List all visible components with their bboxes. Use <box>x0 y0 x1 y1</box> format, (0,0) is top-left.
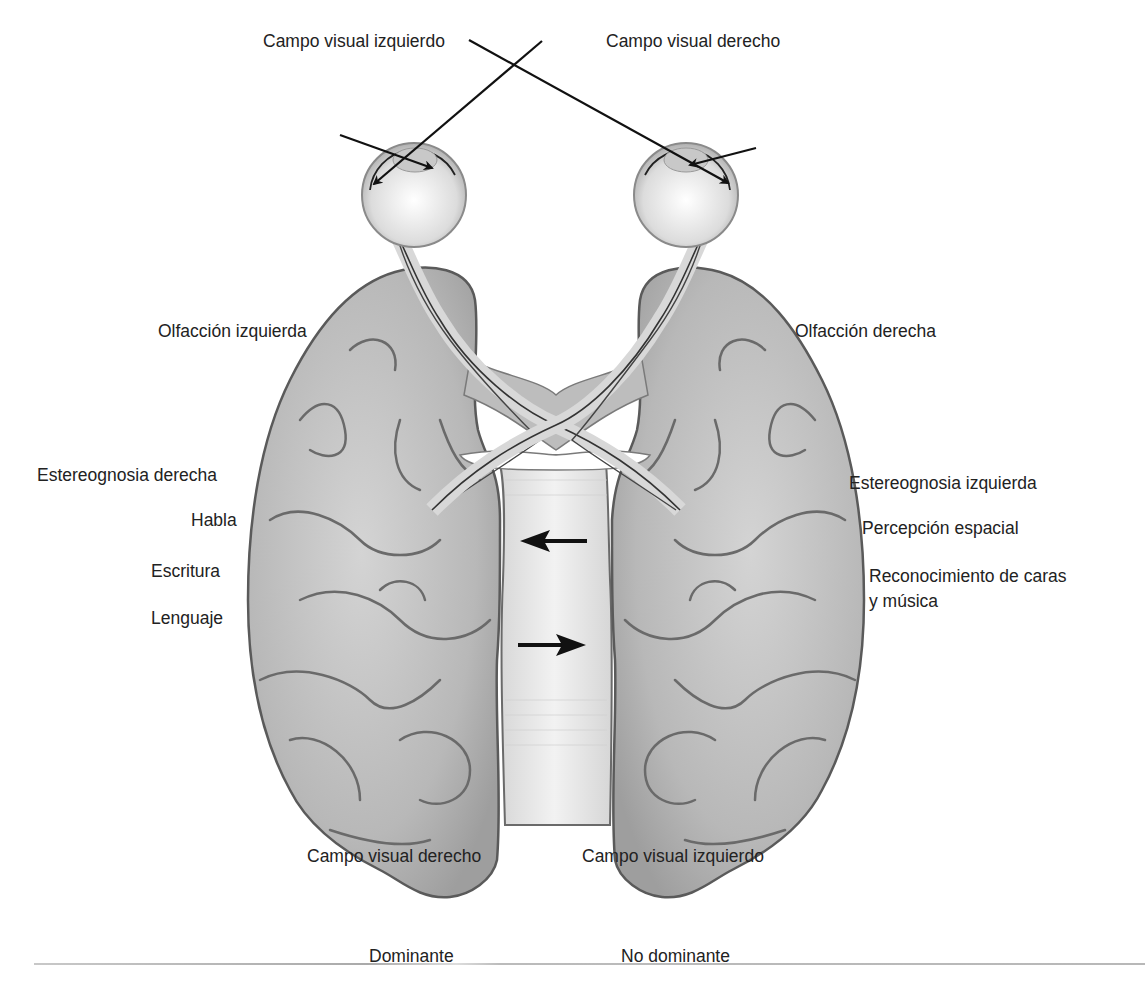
label-left-stereognosis: Estereognosia derecha <box>37 467 217 485</box>
label-recognition-line1: Reconocimiento de caras <box>869 568 1066 586</box>
brain-illustration <box>0 0 1145 1002</box>
label-top-right-visual-field: Campo visual derecho <box>606 33 780 51</box>
label-right-visual-field-bottom: Campo visual izquierdo <box>582 848 764 866</box>
label-right-olfaction: Olfacción derecha <box>795 323 936 341</box>
label-writing: Escritura <box>151 563 220 581</box>
brain-diagram: Campo visual izquierdo Campo visual dere… <box>0 0 1145 1002</box>
label-left-olfaction: Olfacción izquierda <box>158 323 307 341</box>
left-eye <box>362 143 466 247</box>
label-spatial-perception: Percepción espacial <box>862 520 1019 538</box>
bottom-divider <box>34 963 1145 965</box>
label-right-stereognosis: Estereognosia izquierda <box>849 475 1037 493</box>
corpus-callosum <box>497 455 612 825</box>
label-top-left-visual-field: Campo visual izquierdo <box>263 33 445 51</box>
label-left-visual-field-bottom: Campo visual derecho <box>307 848 481 866</box>
label-language: Lenguaje <box>151 610 223 628</box>
label-recognition-line2: y música <box>869 593 938 611</box>
label-speech: Habla <box>191 512 237 530</box>
right-hemisphere <box>612 268 864 898</box>
